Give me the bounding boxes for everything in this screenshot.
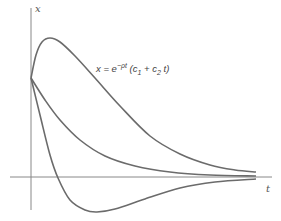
curve-undershoot <box>31 78 256 212</box>
eq-exponent: −ρt <box>117 62 127 69</box>
curve-monotone <box>31 78 256 176</box>
eq-lhs: x = e <box>96 63 117 74</box>
curve-overshoot <box>31 38 256 172</box>
eq-plus: + c <box>141 63 157 74</box>
y-axis-label: x <box>35 3 41 14</box>
x-axis-label: t <box>266 183 270 194</box>
phase-plot <box>0 0 281 221</box>
equation-annotation: x = e−ρt (c1 + c2 t) <box>96 62 169 76</box>
eq-tail: t) <box>161 63 169 74</box>
eq-open: (c <box>127 63 138 74</box>
